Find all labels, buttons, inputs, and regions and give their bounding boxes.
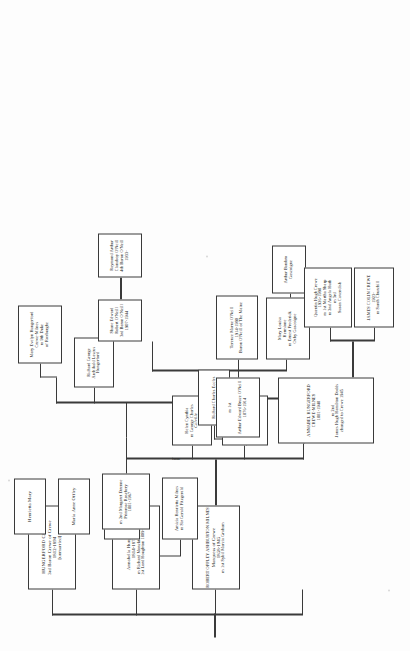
node-line: 1907-1944 [125,310,130,330]
connector-root-to-robert [215,589,216,615]
node-quentin-hugh-crewe[interactable]: Quentin Hugh Crewe 1926-1998 m 1st Marth… [304,267,352,327]
connector-mary-evelyn-riser [40,376,57,377]
connector-crewe-sons-spine [330,339,374,341]
node-amicia-henrietta-milnes[interactable]: Amicia Henrietta Milnes m Sir Gerald Fit… [162,477,198,539]
node-line: m Sir Gerald Fitzgerald [180,487,185,530]
scan-speck [206,255,208,257]
connector-to-james-colin [374,327,375,341]
node-james-colin-crewe[interactable]: JAMES COLIN CREWE 1923- m Sarah Churchil… [354,267,394,327]
node-henrietta-mary[interactable]: Henrietta Mary [14,478,46,534]
node-terence-marne-oneill[interactable]: Terence Marne O'Neill 1914-1990 Baron O'… [216,295,258,359]
connector-root-stub [214,613,216,637]
connector-margaret-children-spine [56,401,190,403]
node-arthur-edward-bruce-oneill[interactable]: m 1st Arthur Edward Bruce O'Neill 1876-1… [216,377,260,437]
connector-to-celia [244,445,245,459]
connector-to-mary-evelyn [56,377,57,403]
node-line: 1881-1948 [317,400,322,420]
chart-rotation-wrapper: issue issue HUNGERFORD CREWE 3rd Baron C… [0,0,410,651]
node-line: Oxby Gascoigne [293,313,298,343]
connector-to-helen-cynthia [192,445,193,459]
chart-canvas: issue issue HUNGERFORD CREWE 3rd Baron C… [0,0,410,651]
connector-robert-children-spine [126,457,304,459]
node-arthur-bambro-gascoigne[interactable]: Arthur Bambro Gascoigne [272,245,306,293]
node-line: Maria Anne Offley [71,487,76,525]
connector-margaret-spine-in [126,402,127,437]
node-line: Hungerford [96,351,101,372]
node-robert-offley-ashburton-milnes[interactable]: ROBERT OFFLEY ASHBURTON MILNES Marquess … [192,505,240,589]
connector-margaret-out [126,437,127,473]
connector-to-eccles [214,425,215,439]
connector-root-spine [52,613,302,615]
connector-root-to-annabella [136,589,137,615]
scan-speck [8,479,10,481]
node-line: 1876-1914 [243,397,248,417]
node-line: m Sarah Churchill [376,280,381,313]
node-richard-george-hungerford[interactable]: Richard George Archibald Lascus Hungerfo… [74,337,114,387]
connector-to-terence [238,359,239,371]
node-line: Gascoigne [289,259,294,278]
connector-to-richard-george [94,387,95,403]
node-line: Henrietta Mary [27,491,32,522]
node-line: of Roxburghe [45,322,50,347]
connector-to-shane [152,341,153,371]
node-line: Susan Cavendish [338,282,343,313]
node-line: m 1st Sybil Marcia Graham [221,522,226,572]
connector-root-to-annabel [302,589,303,615]
scan-speck [388,589,390,591]
node-line: 1933- [125,250,130,261]
chart-page: issue issue HUNGERFORD CREWE 3rd Baron C… [0,0,410,651]
node-maria-anne-offley[interactable]: Maria Anne Offley [58,478,90,534]
node-line: Baron O'Neill of The Maine [239,301,244,352]
connector-to-quentin [330,327,331,341]
connector-robert-out [215,459,217,505]
connector-root-to-hungerford [52,589,53,615]
node-margaret-primrose[interactable]: m 2nd Margaret Etrenne Primrose Rosebery… [102,473,150,529]
node-line: [unmarried] [57,535,62,559]
connector-to-mary-louisa [286,359,287,371]
connector-mary-evelyn-in [40,363,41,377]
connector-dodds-out [352,341,354,377]
node-line: 1881-1967 [128,491,133,511]
node-mary-evelyn-hungerford[interactable]: Mary Evelyn Hungerford Crewe-Milnes m 9t… [18,305,62,363]
node-shane-edward-robert-oneill[interactable]: Shane Edward Robert O'Neill 3rd Baron O'… [98,299,142,341]
connector-shane-to-raymond [120,277,122,299]
node-line: m 1st [228,402,233,412]
node-annabel-hungerford-crewe-milnes[interactable]: ANNABEL HUNGERFORD CREWE-MILNES 1881-194… [278,377,374,443]
connector-to-amicia [180,539,181,556]
node-line: changed to Crewe 1945 [340,389,345,432]
node-raymond-arthur-clanaboy-oneill[interactable]: Raymond Arthur Clanaboy O'Neill 4th Baro… [98,233,142,277]
connector-to-annabel-branch [303,443,304,459]
connector-label-issue-1: issue [172,455,180,460]
